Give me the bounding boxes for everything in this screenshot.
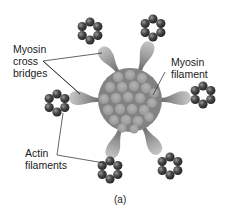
cross-bridges-leader-2 [43,61,80,94]
myosin-filament [98,68,162,134]
label-myosin-cross-bridges-3: bridges [13,67,47,79]
cross-bridge-left [69,91,100,107]
cross-bridge-right [160,91,191,107]
actin-ring-top-left [78,17,103,44]
cross-bridge-top-right [134,40,157,73]
label-myosin-cross-bridges-1: Myosin [13,43,46,55]
figure-caption: (a) [114,194,126,205]
label-actin-filaments-2: filaments [25,159,67,171]
cross-bridge-bottom-left [103,128,126,161]
actin-ring-bottom-left [98,156,123,183]
label-actin-filaments-1: Actin [25,147,49,159]
cross-bridges-leader [43,53,102,94]
actin-ring-bottom-right [158,152,183,179]
myosin-actin-cross-section-diagram: Myosin cross bridges Myosin filament Act… [0,0,229,220]
actin-filaments-leader [57,113,104,163]
label-myosin-filament-1: Myosin [171,56,204,68]
actin-ring-left [45,89,70,116]
actin-ring-right [191,81,216,108]
label-myosin-cross-bridges-2: cross [13,55,38,67]
actin-ring-top-right [141,14,166,41]
label-myosin-filament-2: filament [171,68,208,80]
